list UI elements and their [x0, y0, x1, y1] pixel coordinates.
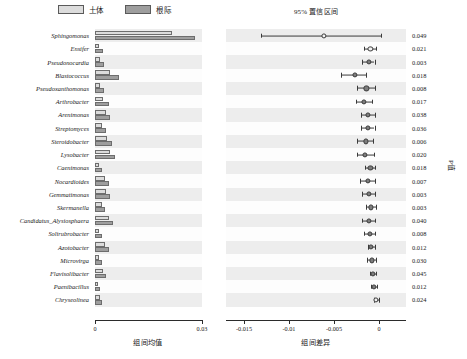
taxon-row: Lysobacter0.020	[0, 148, 467, 161]
p-value: 0.003	[412, 201, 457, 214]
ci-mean-dot	[364, 86, 369, 91]
p-value: 0.030	[412, 254, 457, 267]
right-0-tick	[244, 320, 245, 324]
left-0-tick	[95, 320, 96, 324]
left-max-tick-label: 0.03	[197, 325, 208, 332]
ci-mean-dot	[366, 112, 371, 117]
taxon-label: Skermanella	[0, 201, 92, 214]
bar-pair	[95, 227, 202, 240]
p-value: 0.007	[412, 174, 457, 187]
ci-cap-high	[377, 284, 378, 289]
ci-cap-high	[375, 166, 376, 171]
ci-cap-high	[375, 179, 376, 184]
p-value: 0.049	[412, 29, 457, 42]
taxon-label: Ensifer	[0, 42, 92, 55]
taxon-row: Candidatus_Alysiosphaera0.040	[0, 214, 467, 227]
p-value: 0.017	[412, 95, 457, 108]
ci-cap-low	[361, 113, 362, 118]
legend-item-bulk-soil[interactable]: 土体	[58, 4, 103, 15]
ci-mean-dot	[363, 139, 368, 144]
ci-cap-low	[365, 166, 366, 171]
bar-rhizosphere	[95, 274, 106, 279]
bar-rhizosphere	[95, 234, 102, 239]
p-value: 0.036	[412, 122, 457, 135]
right-2-tick-label: -0.005	[326, 325, 342, 332]
confidence-interval	[226, 55, 406, 68]
taxon-label: Candidatus_Alysiosphaera	[0, 214, 92, 227]
ci-cap-low	[362, 60, 363, 65]
ci-cap-high	[375, 60, 376, 65]
ci-mean-dot	[366, 59, 371, 64]
bar-pair	[95, 95, 202, 108]
ci-cap-low	[366, 205, 367, 210]
taxon-label: Pseudoxanthomonas	[0, 82, 92, 95]
bar-bulk-soil	[95, 216, 109, 221]
ci-cap-low	[362, 218, 363, 223]
bar-pair	[95, 188, 202, 201]
ci-cap-high	[376, 205, 377, 210]
bar-rhizosphere	[95, 287, 100, 292]
ci-cap-high	[376, 258, 377, 263]
taxon-row: Blastococcus0.018	[0, 69, 467, 82]
confidence-interval	[226, 174, 406, 187]
bar-pair	[95, 174, 202, 187]
taxon-label: Lysobacter	[0, 148, 92, 161]
legend-item-rhizosphere[interactable]: 根际	[125, 4, 170, 15]
legend-label-rhizosphere: 根际	[156, 4, 170, 15]
bar-pair	[95, 201, 202, 214]
ci-cap-high	[381, 33, 382, 38]
taxon-row: Steroidobacter0.006	[0, 135, 467, 148]
bar-pair	[95, 214, 202, 227]
confidence-interval	[226, 201, 406, 214]
bar-rhizosphere	[95, 36, 195, 41]
p-value: 0.045	[412, 267, 457, 280]
ci-mean-dot	[368, 205, 373, 210]
legend-label-bulk-soil: 土体	[89, 4, 103, 15]
right-2-tick	[334, 320, 335, 324]
ci-panel-title: 95% 置信区间	[226, 6, 406, 16]
ci-cap-low	[364, 232, 365, 237]
taxon-row: Arthrobacter0.017	[0, 95, 467, 108]
legend-swatch-rhizosphere	[125, 5, 151, 14]
bar-bulk-soil	[95, 242, 105, 247]
taxon-row: Streptomyces0.036	[0, 122, 467, 135]
ci-cap-low	[356, 99, 357, 104]
bar-pair	[95, 29, 202, 42]
bar-rhizosphere	[95, 128, 106, 133]
taxon-row: Microvirga0.030	[0, 254, 467, 267]
ci-cap-low	[261, 33, 262, 38]
taxon-label: Blastococcus	[0, 69, 92, 82]
bar-bulk-soil	[95, 176, 105, 181]
ci-cap-high	[375, 232, 376, 237]
confidence-interval	[226, 148, 406, 161]
confidence-interval	[226, 42, 406, 55]
ci-mean-dot	[368, 165, 373, 170]
ci-cap-high	[375, 245, 376, 250]
taxon-row: Paenibacillus0.012	[0, 280, 467, 293]
ci-cap-high	[373, 139, 374, 144]
p-value: 0.040	[412, 214, 457, 227]
left-axis-label: 组间均值	[133, 337, 162, 347]
ci-mean-dot	[368, 46, 373, 51]
right-0-tick-label: -0.015	[236, 325, 252, 332]
taxon-row: Caenimonas0.018	[0, 161, 467, 174]
taxon-label: Sphingomonas	[0, 29, 92, 42]
ci-cap-high	[372, 99, 373, 104]
bar-bulk-soil	[95, 97, 103, 102]
ci-cap-high	[375, 113, 376, 118]
taxon-row: Skermanella0.003	[0, 201, 467, 214]
bar-bulk-soil	[95, 202, 102, 207]
p-value: 0.012	[412, 241, 457, 254]
confidence-interval	[226, 241, 406, 254]
taxon-row: Ensifer0.021	[0, 42, 467, 55]
bar-rhizosphere	[95, 49, 103, 54]
confidence-interval	[226, 122, 406, 135]
bar-bulk-soil	[95, 295, 100, 300]
ci-cap-high	[375, 126, 376, 131]
confidence-interval	[226, 95, 406, 108]
bar-pair	[95, 293, 202, 306]
confidence-interval	[226, 293, 406, 306]
confidence-interval	[226, 161, 406, 174]
bar-bulk-soil	[95, 163, 99, 168]
bar-pair	[95, 55, 202, 68]
